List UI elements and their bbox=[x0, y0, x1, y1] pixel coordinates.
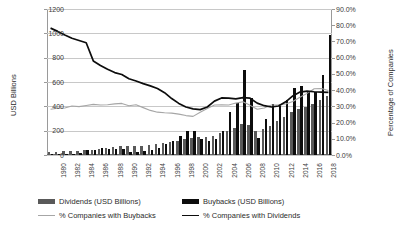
y-tick-mark-left bbox=[44, 58, 47, 59]
x-tick-label: 2008 bbox=[260, 163, 267, 177]
y-tick-label-right: 0.0% bbox=[336, 152, 376, 159]
y-tick-mark-right bbox=[332, 139, 335, 140]
line-pct-dividends bbox=[51, 28, 329, 109]
y-axis-title-left: USD Billions bbox=[9, 74, 18, 116]
legend-label-dividends: Dividends (USD Billions) bbox=[59, 197, 141, 206]
x-tick-label: 2010 bbox=[275, 163, 282, 177]
x-tick-label: 2014 bbox=[303, 163, 310, 177]
y-tick-mark-right bbox=[332, 90, 335, 91]
y-tick-label-left: 400 bbox=[36, 103, 64, 110]
x-tick-label: 2012 bbox=[289, 163, 296, 177]
x-tick-label: 1980 bbox=[61, 163, 68, 177]
y-tick-mark-left bbox=[44, 82, 47, 83]
legend-swatch-pct-buybacks bbox=[38, 215, 55, 216]
chart-legend: Dividends (USD Billions) Buybacks (USD B… bbox=[0, 196, 398, 228]
legend-item-pct-dividends: % Companies with Dividends bbox=[182, 211, 300, 220]
chart-container: USD Billions Percentage of Companies 020… bbox=[0, 0, 398, 231]
plot-area bbox=[47, 9, 332, 155]
legend-label-pct-buybacks: % Companies with Buybacks bbox=[59, 211, 156, 220]
y-tick-label-right: 80.0% bbox=[336, 22, 376, 29]
x-tick-label: 2004 bbox=[232, 163, 239, 177]
y-tick-mark-right bbox=[332, 25, 335, 26]
x-tick-label: 1994 bbox=[161, 163, 168, 177]
x-tick-label: 2002 bbox=[218, 163, 225, 177]
y-tick-label-left: 600 bbox=[36, 79, 64, 86]
y-tick-mark-left bbox=[44, 131, 47, 132]
legend-swatch-buybacks bbox=[182, 199, 199, 204]
x-tick-label: 1982 bbox=[75, 163, 82, 177]
legend-item-pct-buybacks: % Companies with Buybacks bbox=[38, 211, 156, 220]
y-tick-mark-right bbox=[332, 106, 335, 107]
y-tick-mark-right bbox=[332, 74, 335, 75]
y-tick-mark-right bbox=[332, 58, 335, 59]
y-tick-mark-right bbox=[332, 9, 335, 10]
x-tick-label: 2018 bbox=[332, 163, 339, 177]
x-tick-label: 1992 bbox=[146, 163, 153, 177]
y-tick-label-right: 10.0% bbox=[336, 135, 376, 142]
y-tick-label-left: 800 bbox=[36, 54, 64, 61]
legend-label-pct-dividends: % Companies with Dividends bbox=[203, 211, 300, 220]
y-tick-mark-right bbox=[332, 155, 335, 156]
x-tick-label: 2006 bbox=[246, 163, 253, 177]
y-tick-label-right: 40.0% bbox=[336, 87, 376, 94]
legend-swatch-dividends bbox=[38, 199, 55, 204]
y-axis-title-right: Percentage of Companies bbox=[386, 49, 395, 136]
y-tick-label-right: 50.0% bbox=[336, 70, 376, 77]
x-tick-label: 1996 bbox=[175, 163, 182, 177]
x-tick-label: 1998 bbox=[189, 163, 196, 177]
x-tick-label: 2016 bbox=[317, 163, 324, 177]
y-tick-mark-right bbox=[332, 41, 335, 42]
y-tick-label-left: 200 bbox=[36, 127, 64, 134]
x-tick-label: 1984 bbox=[89, 163, 96, 177]
line-pct-buybacks bbox=[51, 88, 329, 116]
y-tick-mark-right bbox=[332, 123, 335, 124]
legend-swatch-pct-dividends bbox=[182, 215, 199, 216]
y-tick-label-right: 70.0% bbox=[336, 38, 376, 45]
y-tick-label-left: 1000 bbox=[36, 30, 64, 37]
x-tick-label: 1990 bbox=[132, 163, 139, 177]
y-tick-label-right: 60.0% bbox=[336, 54, 376, 61]
legend-item-dividends: Dividends (USD Billions) bbox=[38, 197, 141, 206]
line-series-group bbox=[47, 9, 332, 155]
y-tick-label-right: 30.0% bbox=[336, 103, 376, 110]
x-axis-tick-labels: 1980198219841986198819901992199419961998… bbox=[47, 156, 332, 190]
y-tick-mark-left bbox=[44, 9, 47, 10]
x-tick-label: 1988 bbox=[118, 163, 125, 177]
y-tick-mark-left bbox=[44, 33, 47, 34]
y-tick-label-left: 1200 bbox=[36, 6, 64, 13]
y-tick-mark-left bbox=[44, 106, 47, 107]
legend-item-buybacks: Buybacks (USD Billions) bbox=[182, 197, 284, 206]
y-tick-label-right: 90.0% bbox=[336, 6, 376, 13]
x-tick-label: 1986 bbox=[104, 163, 111, 177]
x-tick-label: 2000 bbox=[203, 163, 210, 177]
legend-label-buybacks: Buybacks (USD Billions) bbox=[203, 197, 284, 206]
y-tick-label-right: 20.0% bbox=[336, 119, 376, 126]
